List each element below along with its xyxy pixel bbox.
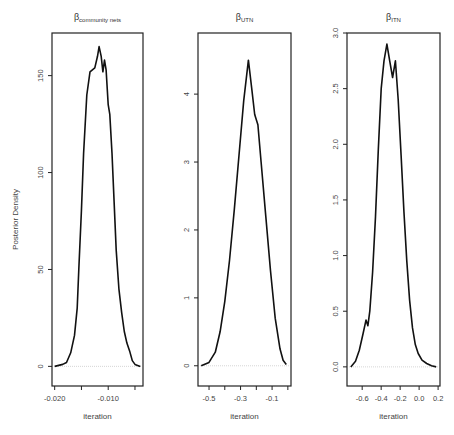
x-tick-label: -0.010: [98, 394, 119, 403]
x-tick-label: -0.3: [234, 394, 247, 403]
density-curve: [351, 44, 436, 367]
y-tick-label: 50: [36, 265, 45, 273]
posterior-density-figure: -0.020-0.010050100150iterationβcommunity…: [0, 0, 454, 435]
x-tick-label: -0.020: [44, 394, 65, 403]
y-axis-title: Posterior Density: [11, 189, 20, 250]
plot-frame: [347, 33, 440, 386]
density-panel-1: -0.020-0.010050100150iterationβcommunity…: [11, 12, 143, 421]
y-tick-label: 1: [182, 296, 191, 300]
x-axis-title: iteration: [379, 412, 407, 421]
y-tick-label: 4: [182, 92, 191, 96]
x-tick-label: -0.4: [375, 394, 388, 403]
density-panel-3: -0.6-0.4-0.20.00.20.00.51.01.52.02.53.0i…: [331, 12, 443, 421]
density-curve: [201, 60, 286, 366]
panel-title: βITN: [386, 12, 401, 23]
y-tick-label: 3: [182, 160, 191, 164]
plot-frame: [52, 33, 143, 386]
density-panel-2: -0.5-0.3-0.101234iterationβUTN: [182, 12, 291, 421]
y-tick-label: 150: [36, 69, 45, 82]
x-tick-label: 0.0: [414, 394, 424, 403]
y-tick-label: 2.0: [331, 139, 340, 149]
y-tick-label: 1.5: [331, 195, 340, 205]
y-tick-label: 0: [36, 364, 45, 368]
y-tick-label: 0.5: [331, 306, 340, 316]
y-tick-label: 0: [182, 364, 191, 368]
density-curve: [55, 47, 141, 367]
x-axis-title: iteration: [83, 412, 111, 421]
x-axis-title: iteration: [230, 412, 258, 421]
x-tick-label: -0.5: [203, 394, 216, 403]
panel-title: βUTN: [236, 12, 254, 23]
x-tick-label: -0.1: [266, 394, 279, 403]
x-tick-label: -0.6: [356, 394, 369, 403]
x-tick-label: -0.2: [394, 394, 407, 403]
y-tick-label: 3.0: [331, 28, 340, 38]
y-tick-label: 0.0: [331, 362, 340, 372]
x-tick-label: 0.2: [433, 394, 443, 403]
y-tick-label: 2: [182, 228, 191, 232]
y-tick-label: 1.0: [331, 250, 340, 260]
y-tick-label: 2.5: [331, 83, 340, 93]
y-tick-label: 100: [36, 166, 45, 179]
panel-title: βcommunity nets: [74, 12, 121, 23]
